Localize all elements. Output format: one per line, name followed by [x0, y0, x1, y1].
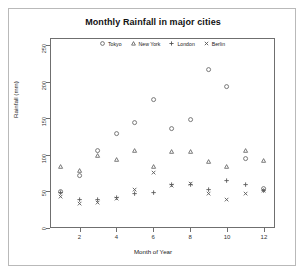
legend-item-label: New York: [139, 41, 161, 47]
x-axis-tick: [153, 228, 154, 232]
x-axis-tick: [116, 228, 117, 232]
plus-icon: [169, 41, 175, 47]
legend-item-label: Berlin: [212, 41, 225, 47]
y-axis-tick-label: 200: [41, 81, 47, 90]
chart-title: Monthly Rainfall in major cities: [0, 17, 306, 27]
x-axis-tick: [190, 228, 191, 232]
x-axis-tick: [264, 228, 265, 232]
plot-frame: [50, 38, 275, 228]
legend-item-london[interactable]: London: [169, 41, 194, 47]
x-axis-tick-label: 8: [188, 234, 191, 240]
legend-item-label: London: [177, 41, 194, 47]
chart-figure: Monthly Rainfall in major cities Rainfal…: [0, 0, 306, 276]
legend-item-label: Tokyo: [108, 41, 122, 47]
x-axis-tick: [80, 228, 81, 232]
y-axis-tick-label: 50: [41, 190, 47, 196]
legend-item-berlin[interactable]: Berlin: [204, 41, 225, 47]
x-axis-tick-label: 4: [115, 234, 118, 240]
triangle-icon: [131, 41, 137, 47]
y-axis-tick-label: 100: [41, 154, 47, 163]
legend-item-new-york[interactable]: New York: [131, 41, 161, 47]
chart-legend: TokyoNew YorkLondonBerlin: [50, 41, 275, 47]
y-axis-tick-label: 0: [41, 227, 47, 230]
x-axis-tick-label: 2: [78, 234, 81, 240]
x-axis-tick-label: 10: [224, 234, 231, 240]
y-axis-tick-label: 250: [41, 44, 47, 53]
y-axis-label: Rainfall (mm): [12, 81, 19, 118]
x-axis-tick: [227, 228, 228, 232]
cross-icon: [204, 41, 210, 47]
legend-item-tokyo[interactable]: Tokyo: [100, 41, 122, 47]
x-axis-tick-label: 6: [152, 234, 155, 240]
circle-icon: [100, 41, 106, 47]
y-axis-tick-label: 150: [41, 117, 47, 126]
x-axis-label: Month of Year: [0, 248, 306, 255]
x-axis-tick-label: 12: [261, 234, 268, 240]
